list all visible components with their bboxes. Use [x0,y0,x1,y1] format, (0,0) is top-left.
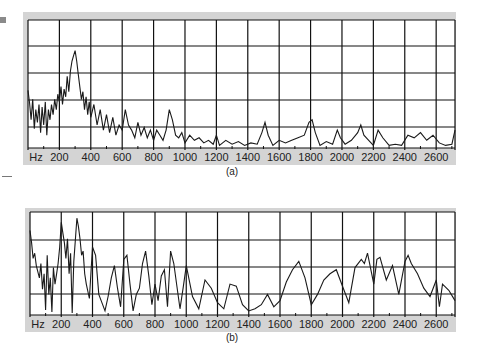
x-tick-label: 1800 [299,318,323,330]
x-tick-label: 1600 [268,318,292,330]
x-tick-label: 200 [52,318,70,330]
caption-b: (b) [212,332,252,343]
x-tick-label: 2200 [362,318,386,330]
x-tick-label: 2400 [393,318,417,330]
x-tick-label: 1000 [174,318,198,330]
x-tick-label: 800 [146,318,164,330]
x-tick-label: 2000 [330,318,354,330]
x-tick-label: 400 [83,318,101,330]
x-tick-label: 1400 [237,318,261,330]
x-unit-label: Hz [31,318,44,330]
x-axis-labels: Hz20040060080010001200140016001800200022… [31,318,448,330]
plot-area [30,212,455,315]
x-tick-label: 2600 [424,318,448,330]
x-tick-label: 1200 [205,318,229,330]
x-tick-label: 600 [115,318,133,330]
spectrum-chart-b: Hz20040060080010001200140016001800200022… [0,0,480,349]
